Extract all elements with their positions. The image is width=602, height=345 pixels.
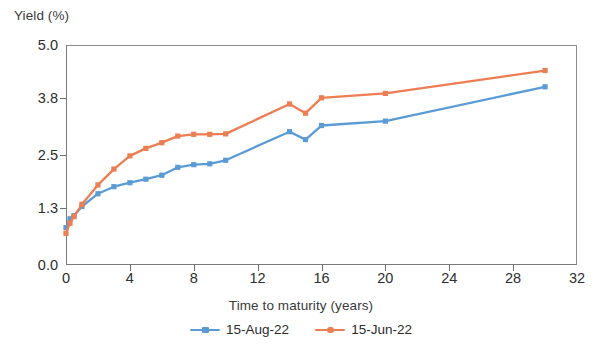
data-point	[71, 214, 76, 219]
data-point	[63, 231, 68, 236]
series-15-Aug-22	[63, 84, 547, 230]
data-point	[175, 165, 180, 170]
data-point	[542, 68, 547, 73]
data-point	[79, 202, 84, 207]
data-point	[383, 91, 388, 96]
data-point	[383, 119, 388, 124]
chart-container: Yield (%) 0.01.32.53.85.0 04812162024283…	[0, 0, 602, 345]
data-point	[303, 137, 308, 142]
data-point	[111, 166, 116, 171]
data-point	[223, 158, 228, 163]
data-point	[191, 162, 196, 167]
legend-label: 15-Aug-22	[226, 322, 289, 337]
data-point	[287, 129, 292, 134]
data-point	[143, 146, 148, 151]
data-point	[95, 191, 100, 196]
legend-swatch-icon	[190, 325, 220, 335]
chart-legend: 15-Aug-2215-Jun-22	[0, 322, 602, 337]
data-point	[319, 123, 324, 128]
data-point	[207, 161, 212, 166]
series-15-Jun-22	[63, 68, 547, 236]
x-axis-title: Time to maturity (years)	[0, 298, 602, 313]
data-point	[127, 153, 132, 158]
data-point	[223, 131, 228, 136]
series-layer	[0, 0, 602, 345]
series-line	[66, 87, 545, 228]
data-point	[127, 180, 132, 185]
data-point	[95, 182, 100, 187]
data-point	[287, 101, 292, 106]
data-point	[111, 184, 116, 189]
data-point	[542, 84, 547, 89]
legend-label: 15-Jun-22	[351, 322, 412, 337]
data-point	[67, 221, 72, 226]
series-line	[66, 71, 545, 234]
legend-swatch-icon	[315, 325, 345, 335]
data-point	[159, 140, 164, 145]
legend-item[interactable]: 15-Aug-22	[190, 322, 289, 337]
data-point	[143, 177, 148, 182]
data-point	[175, 133, 180, 138]
data-point	[159, 173, 164, 178]
data-point	[319, 95, 324, 100]
legend-item[interactable]: 15-Jun-22	[315, 322, 412, 337]
data-point	[207, 132, 212, 137]
data-point	[191, 132, 196, 137]
data-point	[303, 111, 308, 116]
